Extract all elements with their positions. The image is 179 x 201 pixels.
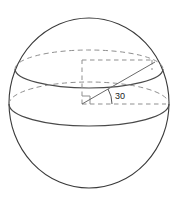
- equator-circle-front-solid: [9, 104, 169, 126]
- sphere-diagram-figure: 30: [0, 0, 179, 201]
- equator-circle-back-dashed: [9, 82, 169, 104]
- sphere-diagram-svg: 30: [0, 0, 179, 201]
- angle-arc: [108, 89, 112, 104]
- sphere-outline: [9, 18, 169, 188]
- upper-circle-front-solid: [15, 69, 163, 88]
- angle-label: 30: [115, 91, 125, 101]
